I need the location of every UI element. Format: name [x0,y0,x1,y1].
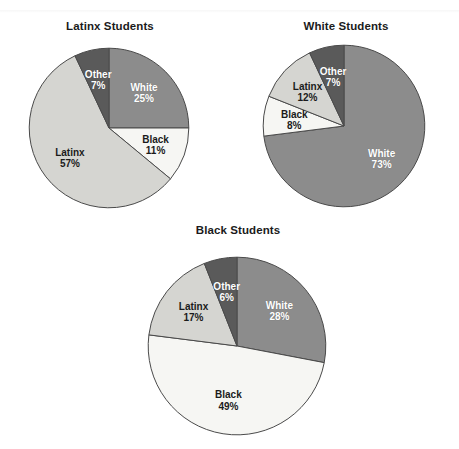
pie-slice-white[interactable] [237,257,326,362]
chart-title: White Students [248,20,444,32]
pie-slice-white[interactable] [109,48,189,128]
pie-area: White25%Black11%Latinx57%Other7% [28,47,190,209]
pie-chart-black-students: Black StudentsWhite28%Black49%Latinx17%O… [140,224,336,442]
pie-chart-white-students: White StudentsWhite73%Black8%Latinx12%Ot… [248,20,444,214]
pie-svg [147,256,327,436]
pie-chart-latinx-students: Latinx StudentsWhite25%Black11%Latinx57%… [12,20,208,215]
pie-svg [28,47,190,209]
chart-title: Latinx Students [12,20,208,32]
pie-area: White73%Black8%Latinx12%Other7% [262,44,426,208]
pie-area: White28%Black49%Latinx17%Other6% [147,256,327,436]
pie-svg [262,44,426,208]
scan-artifact-line [0,10,459,13]
chart-title: Black Students [140,224,336,236]
